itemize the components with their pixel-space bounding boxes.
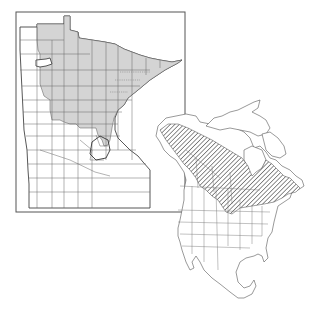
range-map-figure: Minnesota county map; counties with reco… [0, 0, 321, 310]
minnesota-inset [16, 12, 185, 212]
map-svg [0, 0, 321, 310]
